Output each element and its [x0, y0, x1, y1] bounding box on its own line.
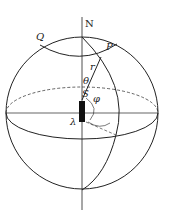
label-phi: φ [93, 93, 100, 104]
label-s: S [82, 88, 89, 99]
projection-dashed [86, 122, 116, 135]
observer-block [79, 101, 85, 122]
label-north: N [85, 18, 94, 29]
label-p: P [105, 41, 113, 52]
meridian-arc [82, 37, 119, 190]
label-theta: θ [83, 75, 89, 86]
label-lambda: λ [69, 116, 76, 127]
sphere-diagram: N Q P r θ S φ λ [0, 0, 170, 221]
label-q: Q [36, 31, 44, 42]
